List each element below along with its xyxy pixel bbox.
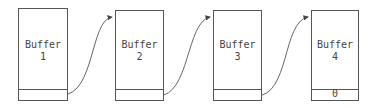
buffer-2-pointer [116,88,163,100]
buffer-3-pointer [214,88,261,100]
buffer-3-label: Buffer 3 [214,39,261,63]
buffer-3: Buffer 3 [213,10,262,101]
arrow-1-to-2 [62,17,112,95]
buffer-4: Buffer 4 0 [311,10,359,101]
buffer-1: Buffer 1 [18,8,68,101]
buffer-4-pointer-null: 0 [312,88,358,100]
buffer-1-pointer [19,88,67,100]
arrow-3-to-4 [256,17,308,96]
buffer-2-label: Buffer 2 [116,39,163,63]
buffer-1-label: Buffer 1 [19,39,67,63]
buffer-2: Buffer 2 [115,10,164,101]
buffer-4-label: Buffer 4 [312,39,358,63]
arrow-2-to-3 [158,17,210,96]
